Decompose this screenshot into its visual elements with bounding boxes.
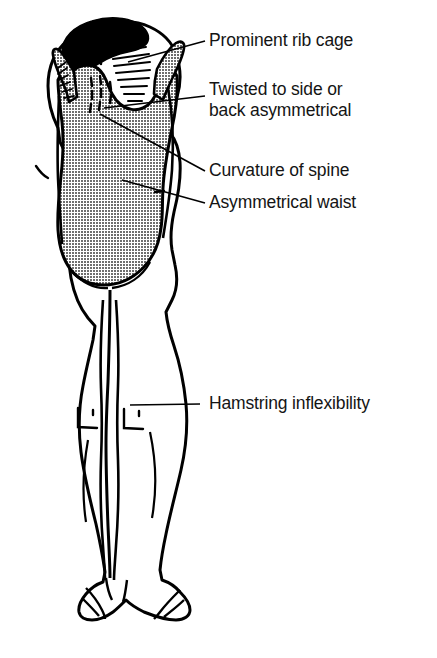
diagram-page: Prominent rib cage Twisted to side or ba… [0,0,437,658]
label-hamstring-inflexibility-text: Hamstring inflexibility [209,393,370,413]
label-asymmetrical-waist: Asymmetrical waist [209,192,356,213]
label-prominent-rib-cage-text: Prominent rib cage [209,30,353,50]
label-asymmetrical-waist-text: Asymmetrical waist [209,192,356,212]
label-prominent-rib-cage: Prominent rib cage [209,30,353,51]
label-twisted-to-side: Twisted to side or back asymmetrical [209,79,351,121]
label-curvature-of-spine-text: Curvature of spine [209,160,349,180]
label-twisted-to-side-line2: back asymmetrical [209,100,351,121]
label-hamstring-inflexibility: Hamstring inflexibility [209,393,370,414]
label-curvature-of-spine: Curvature of spine [209,160,349,181]
left-elbow-crease [36,166,48,178]
leader-line-hamstring [130,404,200,405]
label-twisted-to-side-line1: Twisted to side or [209,79,342,99]
